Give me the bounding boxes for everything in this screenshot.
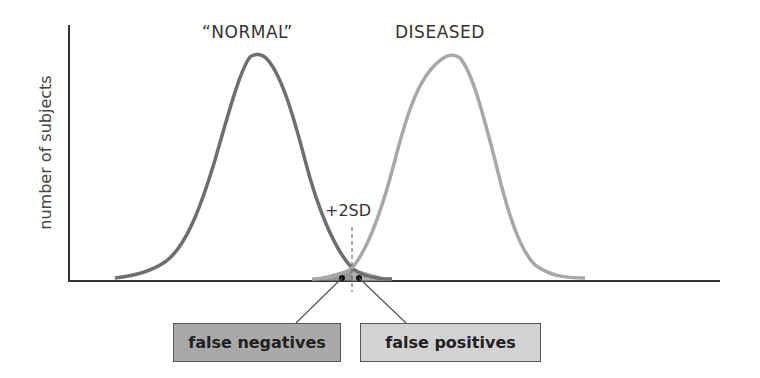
threshold-label: +2SD <box>325 201 371 220</box>
false-positive-leader <box>359 278 406 323</box>
false-negatives-box: false negatives <box>173 323 341 362</box>
normal-curve <box>115 54 392 279</box>
distribution-diagram <box>0 0 760 378</box>
false-positives-box: false positives <box>360 323 541 362</box>
diseased-curve <box>312 55 585 279</box>
y-axis-label: number of subjects <box>36 63 55 243</box>
false-negatives-label: false negatives <box>188 333 326 352</box>
false-positives-label: false positives <box>385 333 516 352</box>
diseased-label: DISEASED <box>395 22 485 42</box>
normal-label: “NORMAL” <box>202 22 293 42</box>
false-negative-leader <box>296 278 342 323</box>
